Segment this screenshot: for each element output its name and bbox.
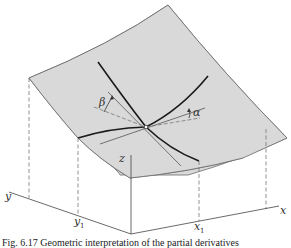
- surface-fill-lower: [29, 5, 287, 178]
- axis-label-x: x: [280, 204, 287, 217]
- figure-caption: Fig. 6.17 Geometric interpretation of th…: [2, 238, 239, 248]
- label-x1-subscript: 1: [200, 227, 204, 235]
- angle-label-alpha: α: [193, 106, 201, 119]
- angle-label-beta: β: [98, 96, 105, 109]
- axis-label-z: z: [118, 152, 125, 165]
- tangency-point: [144, 125, 148, 129]
- label-y1-subscript: 1: [80, 222, 84, 230]
- y-axis: [9, 192, 131, 234]
- x-axis: [131, 206, 279, 234]
- axis-label-y: y: [4, 190, 12, 203]
